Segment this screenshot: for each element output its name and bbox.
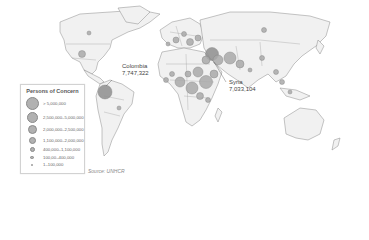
legend-item: 400,000–1,100,000 bbox=[21, 147, 84, 152]
callout-syria-value: 7,033,104 bbox=[229, 86, 256, 93]
legend-item: 2,500,000–5,000,000 bbox=[21, 112, 84, 123]
callout-syria-name: Syria bbox=[229, 79, 256, 86]
legend-circle-icon bbox=[26, 97, 39, 110]
source-caption: Source: UNHCR bbox=[88, 168, 125, 174]
bubble-colombia bbox=[98, 85, 112, 99]
legend-circle-icon bbox=[29, 137, 36, 144]
callout-colombia-value: 7,747,322 bbox=[122, 70, 149, 77]
legend-circle-icon bbox=[27, 112, 38, 123]
australia-landmass bbox=[284, 108, 324, 140]
callout-syria: Syria 7,033,104 bbox=[229, 79, 256, 93]
legend-circle-icon bbox=[31, 164, 33, 166]
legend-item: 1–100,000 bbox=[21, 162, 84, 167]
map-legend: Persons of Concern > 5,000,000 2,500,000… bbox=[20, 84, 85, 174]
legend-title: Persons of Concern bbox=[21, 88, 84, 94]
callout-colombia: Colombia 7,747,322 bbox=[122, 63, 149, 77]
legend-item: 1,100,000–2,000,000 bbox=[21, 137, 84, 144]
legend-circle-icon bbox=[28, 125, 37, 134]
callout-colombia-name: Colombia bbox=[122, 63, 149, 70]
legend-item: 100,00–400,000 bbox=[21, 155, 84, 160]
legend-item: 2,000,000–2,500,000 bbox=[21, 125, 84, 134]
legend-circle-icon bbox=[30, 156, 34, 160]
legend-circle-icon bbox=[30, 147, 35, 152]
legend-item: > 5,000,000 bbox=[21, 97, 84, 110]
